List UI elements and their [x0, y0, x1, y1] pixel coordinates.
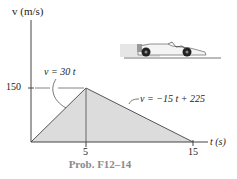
annotation-falling: v = −15 t + 225: [140, 93, 205, 104]
x-tick-label-5: 5: [83, 146, 88, 157]
x-tick-label-15: 15: [188, 146, 198, 157]
leader-rising: [53, 79, 66, 108]
velocity-time-graph: [0, 0, 237, 179]
leader-falling: [129, 99, 139, 104]
y-axis-label: v (m/s): [12, 5, 43, 17]
annotation-rising: v = 30 t: [44, 66, 75, 77]
figure-caption: Prob. F12–14: [0, 158, 200, 170]
x-axis-label: t (s): [210, 136, 226, 147]
race-car-icon: [120, 42, 221, 58]
y-tick-label-150: 150: [6, 81, 21, 92]
